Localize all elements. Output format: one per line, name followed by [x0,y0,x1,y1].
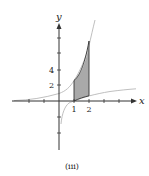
x-tick-label-2: 2 [87,105,92,114]
chart-figure: x y 1 2 2 4 (iii) [0,0,149,176]
y-tick-label-4: 4 [49,66,54,75]
y-axis-label: y [55,11,62,22]
figure-caption: (iii) [65,162,79,171]
y-axis-arrow-icon [57,23,62,29]
x-axis-arrow-icon [131,99,137,104]
x-tick-label-1: 1 [72,105,77,114]
y-tick-label-2: 2 [49,81,54,90]
x-axis-label: x [139,95,145,106]
